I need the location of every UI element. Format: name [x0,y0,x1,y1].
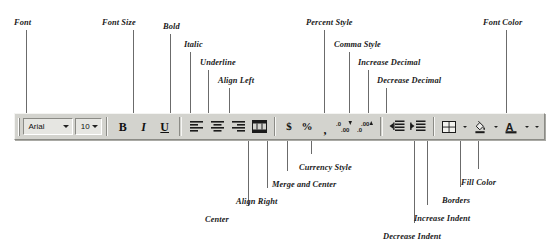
leader-line-percent-style [324,30,325,113]
align-right-button[interactable] [228,116,249,137]
borders-dropdown-arrow[interactable] [460,116,470,137]
increase-decimal-button[interactable]: .0 .00 [334,116,355,137]
currency-dollar-icon: $ [286,121,292,132]
svg-text:.00: .00 [361,121,370,127]
paint-bucket-icon [473,120,487,134]
toolbar-separator [380,117,382,136]
increase-indent-icon [410,120,426,133]
font-color-dropdown-arrow[interactable] [522,116,532,137]
toolbar-separator [179,117,181,136]
leader-line-font [26,30,27,113]
decrease-decimal-button[interactable]: .00 .0 [355,116,376,137]
leader-line-align-right [267,141,268,188]
font-size-value: 10 [76,122,90,131]
toolbar-overflow-button[interactable] [532,116,542,137]
leader-line-decrease-decimal [386,88,387,113]
toolbar-drag-handle[interactable] [18,118,20,136]
callout-label-decrease-decimal: Decrease Decimal [377,76,441,86]
fill-color-dropdown-arrow[interactable] [491,116,501,137]
leader-line-decrease-indent [414,141,415,223]
callout-label-merge-and-center: Merge and Center [272,180,336,190]
merge-and-center-button[interactable] [249,116,270,137]
chevron-down-icon[interactable] [90,119,101,134]
fill-color-button[interactable] [470,116,491,137]
merge-center-icon [252,120,267,133]
bold-button[interactable]: B [112,116,133,137]
svg-text:A: A [506,120,514,132]
currency-style-button[interactable]: $ [280,116,298,137]
leader-line-bold [170,34,171,113]
align-center-icon [210,120,225,133]
formatting-toolbar: Arial 10 B I U [14,113,545,140]
font-size-combo[interactable]: 10 [75,118,102,135]
callout-label-decrease-indent: Decrease Indent [383,232,441,242]
align-left-icon [189,120,204,133]
callout-label-bold: Bold [163,22,180,32]
decrease-decimal-icon: .00 .0 [357,120,374,133]
leader-line-merge-and-center [287,141,288,171]
decrease-indent-icon [389,120,405,133]
callout-label-currency-style: Currency Style [299,163,352,173]
callout-label-underline: Underline [200,58,236,68]
callout-label-percent-style: Percent Style [306,18,353,28]
toolbar-separator [433,117,435,136]
svg-text:.00: .00 [341,127,350,133]
leader-line-fill-color [478,141,479,169]
increase-indent-button[interactable] [408,116,429,137]
leader-line-font-color [506,30,507,113]
svg-text:.0: .0 [357,127,363,133]
percent-icon: % [302,121,313,132]
align-left-button[interactable] [186,116,207,137]
callout-label-increase-indent: Increase Indent [414,214,470,224]
leader-line-align-left [229,88,230,113]
callout-label-font-color: Font Color [483,18,522,28]
font-name-combo[interactable]: Arial [23,118,72,135]
toolbar-separator [274,117,276,136]
comma-icon: , [324,124,327,136]
callout-label-font: Font [14,18,31,28]
font-name-value: Arial [24,122,60,131]
leader-line-underline [208,70,209,113]
bold-icon: B [119,121,127,133]
toolbar-separator [106,117,108,136]
callout-label-align-left: Align Left [218,76,254,86]
font-color-button[interactable]: A [501,116,522,137]
italic-icon: I [141,121,146,133]
align-right-icon [231,120,246,133]
callout-label-comma-style: Comma Style [334,40,381,50]
center-button[interactable] [207,116,228,137]
callout-label-center: Center [205,215,229,225]
leader-line-currency-style [311,141,312,154]
percent-style-button[interactable]: % [298,116,316,137]
callout-label-borders: Borders [442,196,470,206]
leader-line-increase-indent [427,141,428,205]
borders-button[interactable] [439,116,460,137]
leader-line-font-size [133,30,134,113]
leader-line-italic [190,52,191,113]
font-color-a-icon: A [504,120,518,134]
comma-style-button[interactable]: , [316,116,334,137]
increase-decimal-icon: .0 .00 [336,120,353,133]
callout-label-increase-decimal: Increase Decimal [358,58,420,68]
decrease-indent-button[interactable] [387,116,408,137]
callout-label-align-right: Align Right [236,197,277,207]
leader-line-increase-decimal [368,70,369,113]
italic-button[interactable]: I [133,116,154,137]
leader-line-comma-style [349,52,350,113]
callout-label-italic: Italic [184,40,203,50]
callout-label-font-size: Font Size [102,18,136,28]
callout-label-fill-color: Fill Color [461,178,496,188]
chevron-down-icon[interactable] [61,119,72,134]
underline-icon: U [160,121,169,133]
borders-icon [442,121,456,133]
underline-button[interactable]: U [154,116,175,137]
